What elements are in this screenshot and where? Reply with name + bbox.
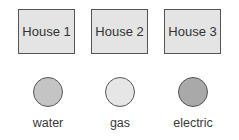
electric-circle-icon <box>178 77 208 107</box>
house-2-box: House 2 <box>91 9 148 54</box>
gas-circle-icon <box>105 77 135 107</box>
house-1-label: House 1 <box>22 24 70 39</box>
water-label: water <box>13 116 83 130</box>
gas-label: gas <box>85 116 155 130</box>
house-2-label: House 2 <box>95 24 143 39</box>
electric-label: electric <box>158 116 228 130</box>
water-circle-icon <box>33 77 63 107</box>
house-3-box: House 3 <box>164 9 221 54</box>
house-1-box: House 1 <box>18 9 75 54</box>
house-3-label: House 3 <box>168 24 216 39</box>
